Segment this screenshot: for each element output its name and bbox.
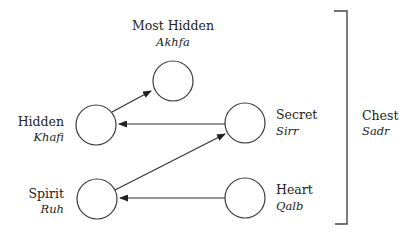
node-qalb bbox=[225, 178, 265, 218]
edge-ruh-to-sirr bbox=[115, 134, 225, 190]
node-ruh bbox=[77, 179, 117, 219]
sublabel-ruh: Ruh bbox=[40, 202, 64, 216]
node-khafi bbox=[76, 105, 116, 145]
sublabel-qalb: Qalb bbox=[276, 199, 303, 213]
label-qalb: Heart bbox=[276, 182, 313, 197]
latifa-diagram: Most Hidden Akhfa Hidden Khafi Secret Si… bbox=[0, 0, 412, 237]
label-chest: Chest bbox=[362, 108, 398, 123]
label-sirr: Secret bbox=[276, 107, 317, 122]
sublabel-akhfa: Akhfa bbox=[155, 35, 190, 49]
node-sirr bbox=[225, 103, 265, 143]
edge-khafi-to-akhfa bbox=[112, 91, 151, 112]
label-ruh: Spirit bbox=[28, 186, 64, 201]
chest-bracket bbox=[334, 11, 347, 224]
sublabel-sirr: Sirr bbox=[276, 124, 300, 138]
sublabel-khafi: Khafi bbox=[32, 130, 64, 144]
label-khafi: Hidden bbox=[18, 114, 64, 129]
node-akhfa bbox=[153, 61, 193, 101]
sublabel-sadr: Sadr bbox=[362, 124, 391, 138]
label-akhfa: Most Hidden bbox=[132, 18, 214, 33]
